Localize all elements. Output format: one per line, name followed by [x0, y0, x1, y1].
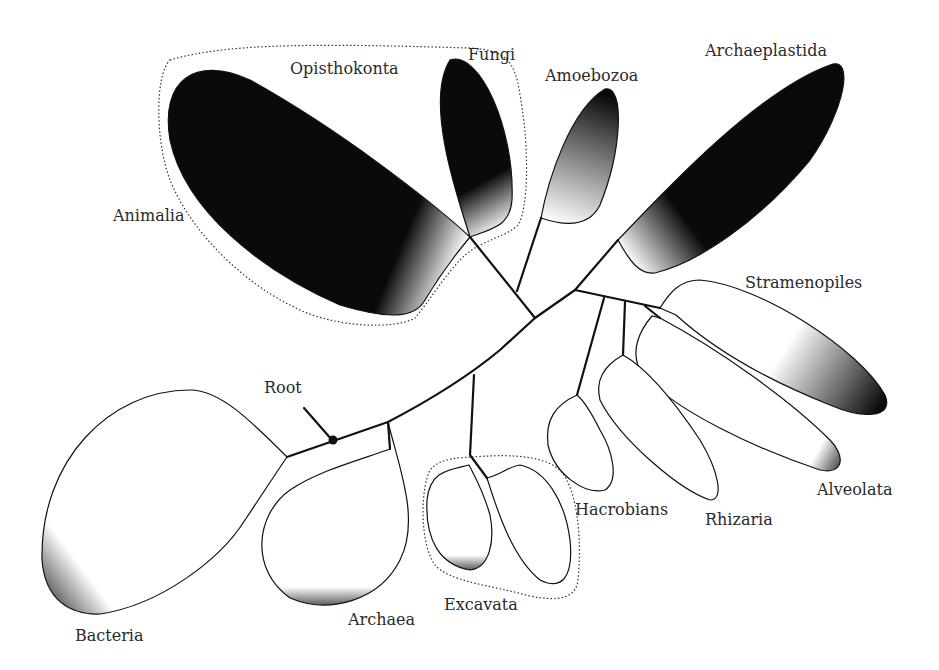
label-stramenopiles: Stramenopiles — [745, 275, 862, 291]
label-amoebozoa: Amoebozoa — [545, 68, 638, 84]
label-archaea: Archaea — [348, 612, 415, 628]
label-opisthokonta: Opisthokonta — [290, 61, 399, 77]
root-marker — [329, 436, 338, 445]
label-alveolata: Alveolata — [817, 482, 892, 498]
label-hacrobians: Hacrobians — [575, 502, 668, 518]
label-root: Root — [264, 380, 302, 396]
hacrobians-clade — [547, 395, 613, 491]
archaea-clade — [262, 422, 409, 605]
label-excavata: Excavata — [444, 597, 518, 613]
archaeplastida-clade — [618, 64, 844, 273]
label-archaeplastida: Archaeplastida — [705, 43, 827, 59]
label-fungi: Fungi — [468, 47, 515, 63]
label-bacteria: Bacteria — [75, 628, 143, 644]
label-rhizaria: Rhizaria — [705, 512, 773, 528]
tree-diagram — [0, 0, 939, 670]
label-animalia: Animalia — [113, 208, 184, 224]
excavata-clade-right — [487, 465, 571, 584]
amoebozoa-clade — [541, 89, 618, 224]
bacteria-clade — [42, 390, 287, 614]
excavata-clade-left — [427, 465, 492, 570]
fungi-clade — [440, 59, 512, 237]
animalia-clade — [168, 70, 470, 315]
